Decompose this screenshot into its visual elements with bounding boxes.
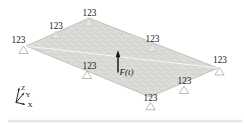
support-label: 123 xyxy=(83,61,97,71)
figure-canvas: 123 123 123 123 123 123 123 123 F(t) Z Y… xyxy=(0,0,244,125)
support-label: 123 xyxy=(83,8,97,18)
support-label: 123 xyxy=(49,21,63,31)
fem-plate-diagram: 123 123 123 123 123 123 123 123 F(t) Z Y… xyxy=(0,0,244,125)
x-axis-arrowhead-icon xyxy=(22,103,25,105)
support-label: 123 xyxy=(146,34,160,44)
support-label: 123 xyxy=(178,76,192,86)
support-label: 123 xyxy=(213,55,227,65)
support-label: 123 xyxy=(144,93,158,103)
x-axis-label: X xyxy=(28,101,33,109)
force-label: F(t) xyxy=(119,67,134,77)
support-triangle-left-corner xyxy=(19,46,28,54)
support-label: 123 xyxy=(12,35,26,45)
support-triangle-bottom-corner xyxy=(146,102,155,110)
support-triangle-bottom-right-edge xyxy=(179,86,188,94)
y-axis-label: Y xyxy=(26,91,31,99)
page-bottom-artifact xyxy=(8,120,242,123)
z-axis-arrowhead-icon xyxy=(18,87,20,90)
x-axis-line xyxy=(16,103,23,104)
coordinate-triad: Z Y X xyxy=(16,84,33,109)
